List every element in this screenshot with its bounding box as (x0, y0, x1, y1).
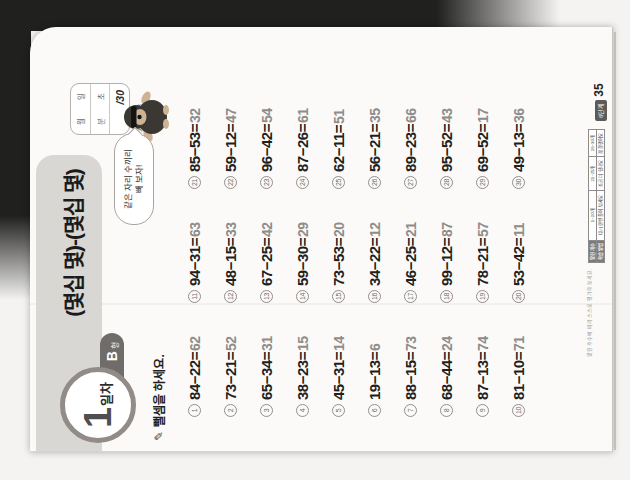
problem-expression: 59−12=47 (222, 109, 239, 172)
day-badge: 1 일차 (60, 367, 136, 443)
problem-answer: 71 (511, 337, 527, 352)
problem-item: 1248−15=33 (222, 189, 239, 303)
problem-item: 1978−21=57 (474, 189, 491, 303)
problem-number: 20 (512, 290, 525, 303)
problem-answer: 43 (439, 109, 455, 124)
problem-expression: 49−13=36 (510, 109, 527, 172)
problem-item: 788−15=73 (402, 303, 419, 417)
problem-number: 7 (404, 404, 417, 417)
problem-answer: 32 (187, 109, 203, 124)
problem-item: 3049−13=36 (510, 75, 527, 189)
evaluation-cell: 조금 더 힘내요 (597, 157, 605, 191)
problem-expression: 62−11=51 (330, 109, 347, 172)
problem-item: 2656−21=35 (366, 75, 383, 189)
problem-number: 2 (224, 404, 237, 417)
score-date-row: 월 일 (71, 84, 91, 134)
problem-number: 10 (512, 404, 525, 417)
problem-number: 11 (188, 290, 201, 303)
problem-answer: 62 (187, 337, 203, 352)
problem-item: 273−21=52 (222, 303, 239, 417)
minute-label: 분 (95, 118, 106, 125)
problem-answer: 35 (367, 109, 383, 124)
scanner-backdrop-left (0, 0, 31, 300)
problem-answer: 11 (511, 223, 527, 237)
problem-number: 21 (188, 176, 201, 189)
problem-answer: 66 (403, 109, 419, 124)
problem-number: 28 (440, 176, 453, 189)
problem-item: 868−44=24 (438, 303, 455, 417)
problem-expression: 45−31=14 (330, 337, 347, 400)
problem-answer: 63 (187, 223, 203, 238)
problem-number: 14 (296, 290, 309, 303)
problem-answer: 52 (223, 337, 239, 352)
day-number: 1 (79, 407, 117, 428)
evaluation-cell: 1~20개 (589, 190, 597, 240)
evaluation-cell: 21~25개 (589, 157, 597, 191)
problem-answer: 36 (511, 109, 527, 124)
problem-number: 18 (440, 290, 453, 303)
problem-item: 184−22=62 (186, 303, 203, 417)
problem-number: 16 (368, 290, 381, 303)
footer-caption: 맞힌 개수에 따라 스스로 평가해 보세요. (585, 269, 592, 357)
problem-answer: 73 (403, 337, 419, 352)
problem-item: 2259−12=47 (222, 75, 239, 189)
problem-number: 13 (260, 290, 273, 303)
problem-expression: 73−53=20 (330, 223, 347, 286)
problem-expression: 56−21=35 (366, 109, 383, 172)
evaluation-header-cell: 맞힌 개수 (589, 240, 597, 262)
score-time-row: 분 초 (91, 84, 111, 134)
problem-number: 5 (332, 404, 345, 417)
page-number: 35 (592, 83, 606, 96)
page-title: (몇십 몇)-(몇십 몇) (57, 141, 87, 345)
evaluation-table-row: 학습 방법다시 한번 풀어 보세요조금 더 힘내요참 잘했어요 (597, 130, 605, 263)
problem-expression: 48−15=33 (222, 223, 239, 286)
problem-answer: 17 (475, 109, 491, 124)
problem-answer: 29 (295, 223, 311, 238)
problem-answer: 33 (223, 223, 239, 238)
problem-item: 1194−31=63 (186, 189, 203, 303)
problem-expression: 69−52=17 (474, 109, 491, 172)
page-footer: 6단계 35 (592, 83, 607, 121)
problem-number: 22 (224, 176, 237, 189)
evaluation-cell: 다시 한번 풀어 보세요 (597, 190, 605, 240)
problem-number: 26 (368, 176, 381, 189)
problem-expression: 68−44=24 (438, 337, 455, 400)
problem-number: 9 (476, 404, 489, 417)
problem-item: 1746−25=21 (402, 189, 419, 303)
problem-number: 3 (260, 404, 273, 417)
evaluation-cell: 26~30개 (589, 130, 597, 157)
problem-expression: 78−21=57 (474, 223, 491, 286)
form-letter: B (104, 351, 120, 361)
problem-expression: 84−22=62 (186, 337, 203, 400)
problem-number: 30 (512, 176, 525, 189)
problem-item: 2562−11=51 (330, 75, 347, 189)
problem-answer: 21 (403, 223, 419, 238)
problem-item: 1081−10=71 (510, 303, 527, 417)
instruction-text: 뺄셈을 하세요. (150, 354, 167, 427)
problem-expression: 67−25=42 (258, 223, 275, 286)
hint-line-1: 같은 자리 수끼리 (123, 149, 134, 210)
problem-item: 2185−53=32 (186, 75, 203, 189)
hint-line-2: 빼 보자! (134, 165, 145, 194)
form-suffix: 형 (109, 342, 120, 349)
problem-number: 8 (440, 404, 453, 417)
problem-expression: 34−22=12 (366, 223, 383, 286)
problem-answer: 24 (439, 337, 455, 352)
problem-number: 25 (332, 176, 345, 189)
problem-expression: 89−23=66 (402, 109, 419, 172)
problem-answer: 12 (367, 223, 383, 238)
problem-item: 1459−30=29 (294, 189, 311, 303)
problem-item: 2487−26=61 (294, 75, 311, 189)
problem-answer: 87 (439, 223, 455, 238)
month-label: 월 (75, 118, 86, 125)
evaluation-table-row: 맞힌 개수1~20개21~25개26~30개 (589, 130, 597, 263)
problem-item: 2789−23=66 (402, 75, 419, 189)
problem-expression: 53−42=11 (510, 223, 527, 286)
problem-number: 12 (224, 290, 237, 303)
problem-item: 987−13=74 (474, 303, 491, 417)
problem-answer: 61 (295, 109, 311, 124)
evaluation-table: 맞힌 개수1~20개21~25개26~30개학습 방법다시 한번 풀어 보세요조… (588, 129, 605, 263)
problem-number: 4 (296, 404, 309, 417)
problem-expression: 19−13=6 (366, 344, 383, 400)
problem-expression: 99−12=87 (438, 223, 455, 286)
